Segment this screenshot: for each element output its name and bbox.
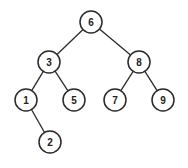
tree-node-9: 9 (152, 89, 174, 111)
tree-node-5: 5 (63, 89, 85, 111)
tree-node-2: 2 (39, 131, 61, 153)
node-label: 7 (112, 95, 118, 106)
tree-diagram: 63815792 (0, 0, 188, 168)
edge-8-9 (145, 71, 157, 90)
edge-6-8 (99, 29, 130, 55)
edge-3-5 (55, 71, 68, 91)
tree-node-6: 6 (80, 11, 102, 33)
node-label: 8 (136, 57, 142, 68)
tree-node-1: 1 (15, 89, 37, 111)
tree-edges (31, 29, 157, 132)
tree-node-8: 8 (128, 51, 150, 73)
node-label: 6 (88, 17, 94, 28)
node-label: 3 (46, 57, 52, 68)
edge-3-1 (32, 71, 44, 90)
edge-8-7 (121, 71, 133, 90)
node-label: 2 (47, 137, 53, 148)
tree-node-3: 3 (38, 51, 60, 73)
node-label: 9 (160, 95, 166, 106)
edge-1-2 (31, 110, 44, 133)
node-label: 5 (71, 95, 77, 106)
edge-6-3 (57, 30, 83, 55)
tree-nodes: 63815792 (15, 11, 174, 153)
tree-node-7: 7 (104, 89, 126, 111)
node-label: 1 (23, 95, 29, 106)
